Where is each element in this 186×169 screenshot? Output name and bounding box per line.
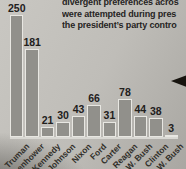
bar-value-label: 66 <box>88 93 100 104</box>
x-axis-label-slot: G.W. Bush <box>165 139 178 169</box>
bar <box>56 122 69 137</box>
bar-value-label: 181 <box>23 37 41 48</box>
bar-value-label: 38 <box>150 106 162 117</box>
bar-chart: 25018121304366317844383 <box>10 0 178 139</box>
bar-value-label: 78 <box>119 87 131 98</box>
bar-slot: 21 <box>41 0 54 137</box>
bar-slot: 31 <box>103 0 116 137</box>
bar <box>72 116 85 137</box>
bar-slot: 78 <box>118 0 131 137</box>
bar-value-label: 44 <box>135 104 147 115</box>
scanned-figure-page: divergent preferences acros were attempt… <box>0 0 186 169</box>
bar-slot: 44 <box>134 0 147 137</box>
bar-slot: 181 <box>25 0 38 137</box>
bar-slot: 66 <box>87 0 100 137</box>
bar-slot: 250 <box>10 0 23 137</box>
bar <box>25 49 38 137</box>
x-axis-label-slot: Ford <box>87 139 100 169</box>
x-axis-labels: TrumanEisenhowerKennedyJohnsonNixonFordC… <box>10 139 178 169</box>
bar-value-label: 21 <box>42 115 54 126</box>
bar-slot: 3 <box>165 0 178 137</box>
bar-value-label: 30 <box>57 110 69 121</box>
bar <box>103 122 116 137</box>
bar-value-label: 43 <box>73 104 85 115</box>
bar <box>134 116 147 137</box>
bar-value-label: 31 <box>104 110 116 121</box>
x-axis-label-slot: Nixon <box>72 139 85 169</box>
bar <box>165 135 178 137</box>
bar <box>149 118 162 137</box>
bar <box>41 127 54 137</box>
bar-slot: 43 <box>72 0 85 137</box>
x-axis-label-slot: Johnson <box>56 139 69 169</box>
bar <box>87 105 100 137</box>
bar-slot: 38 <box>149 0 162 137</box>
bar <box>118 99 131 137</box>
bar-value-label: 3 <box>168 123 174 134</box>
left-arrowhead-icon <box>171 75 186 87</box>
bar-slot: 30 <box>56 0 69 137</box>
bar <box>10 15 23 137</box>
bar-value-label: 250 <box>8 3 26 14</box>
